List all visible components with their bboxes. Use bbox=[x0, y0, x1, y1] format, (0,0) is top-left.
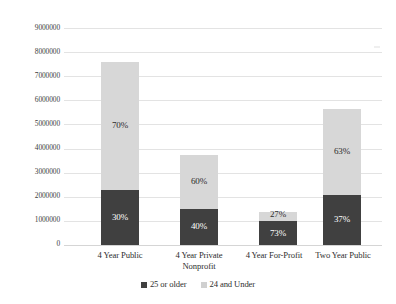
bar-group[interactable]: 63% 37% bbox=[323, 109, 361, 245]
bar-segment-label: 73% bbox=[270, 229, 286, 238]
legend-label: 25 or older bbox=[150, 280, 187, 289]
bar-segment-label: 40% bbox=[191, 222, 207, 231]
bar-group[interactable]: 70% 30% bbox=[101, 62, 139, 245]
bar-segment-24-and-under[interactable]: 60% bbox=[180, 155, 218, 209]
bar-group[interactable]: 27% 73% bbox=[259, 212, 297, 245]
y-tick-label: 4000000 bbox=[0, 144, 60, 152]
bar-segment-25-or-older[interactable]: 30% bbox=[101, 190, 139, 246]
legend-swatch-icon bbox=[141, 282, 147, 288]
bar-segment-24-and-under[interactable]: 27% bbox=[259, 212, 297, 221]
x-axis-category-label: Two Year Public bbox=[293, 250, 393, 261]
y-tick-label: 1000000 bbox=[0, 216, 60, 224]
y-tick-label: 8000000 bbox=[0, 48, 60, 56]
y-tick-label: 6000000 bbox=[0, 96, 60, 104]
scan-artifact bbox=[374, 46, 380, 48]
bar-segment-25-or-older[interactable]: 40% bbox=[180, 209, 218, 245]
legend-label: 24 and Under bbox=[210, 280, 256, 289]
y-tick-label: 7000000 bbox=[0, 72, 60, 80]
legend-swatch-icon bbox=[201, 282, 207, 288]
axis-baseline bbox=[64, 245, 382, 246]
bar-segment-25-or-older[interactable]: 37% bbox=[323, 195, 361, 245]
y-tick-label: 2000000 bbox=[0, 192, 60, 200]
bar-segment-25-or-older[interactable]: 73% bbox=[259, 221, 297, 245]
bar-group[interactable]: 60% 40% bbox=[180, 155, 218, 245]
bars-layer: 70% 30% 60% 40% 27% bbox=[64, 28, 382, 245]
y-tick-label: 0 bbox=[0, 240, 60, 248]
y-tick-label: 3000000 bbox=[0, 168, 60, 176]
bar-segment-label: 63% bbox=[334, 147, 350, 156]
bar-segment-24-and-under[interactable]: 63% bbox=[323, 109, 361, 195]
bar-segment-label: 27% bbox=[270, 210, 286, 219]
plot-area: 70% 30% 60% 40% 27% bbox=[64, 28, 382, 245]
legend-item-25-or-older[interactable]: 25 or older bbox=[141, 280, 187, 289]
bar-segment-label: 30% bbox=[112, 213, 128, 222]
bar-segment-label: 60% bbox=[191, 177, 207, 186]
y-tick-label: 9000000 bbox=[0, 24, 60, 32]
bar-segment-label: 37% bbox=[334, 215, 350, 224]
stacked-bar-chart: 9000000 8000000 7000000 6000000 5000000 … bbox=[0, 0, 396, 304]
chart-legend: 25 or older 24 and Under bbox=[0, 280, 396, 289]
bar-segment-label: 70% bbox=[112, 121, 128, 130]
bar-segment-24-and-under[interactable]: 70% bbox=[101, 62, 139, 190]
y-tick-label: 5000000 bbox=[0, 120, 60, 128]
legend-item-24-and-under[interactable]: 24 and Under bbox=[201, 280, 256, 289]
